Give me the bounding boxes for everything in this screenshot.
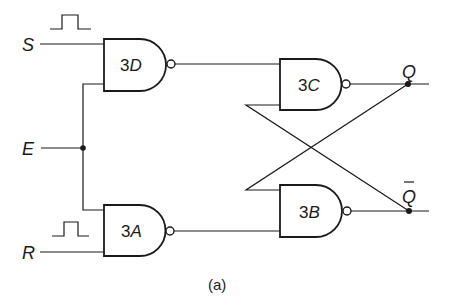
gate-3d-label: 3D [120,56,142,75]
s-pulse-icon [50,15,91,29]
inverter-bubble-icon [166,227,174,235]
e-junction-dot [80,145,86,151]
inverter-bubble-icon [342,80,350,88]
r-input-label: R [22,243,35,263]
inverter-bubble-icon [167,60,175,68]
q-output-label: Q [402,62,416,82]
e-to-3d-wire [83,84,104,148]
gate-3b-label: 3B [299,203,320,222]
figure-caption: (a) [208,276,226,293]
e-to-3a-wire [83,148,104,210]
latch-diagram: 3D 3A 3C 3B S E R Q Q (a) [0,0,449,305]
qbar-output-label: Q [402,187,416,207]
s-input-label: S [22,35,34,55]
inverter-bubble-icon [343,207,351,215]
gate-3a-label: 3A [121,222,142,241]
qbar-junction-dot [406,208,412,214]
r-pulse-icon [52,222,89,236]
e-input-label: E [22,139,35,159]
gate-3c-label: 3C [298,76,320,95]
